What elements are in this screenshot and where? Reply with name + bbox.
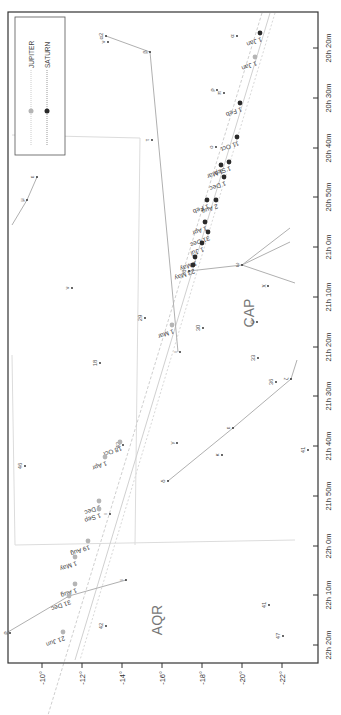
star-dot bbox=[223, 92, 225, 94]
constellation-label-aqr: AQR bbox=[149, 605, 165, 635]
saturn-date-label: 1 Mar bbox=[205, 168, 224, 181]
saturn-date-label: 11 Oct bbox=[220, 140, 240, 153]
jupiter-point: 1 May bbox=[58, 555, 78, 573]
constellation-labels: CAP AQR bbox=[149, 299, 257, 636]
star: α2 bbox=[98, 32, 107, 39]
star-label: δ bbox=[160, 479, 166, 483]
star: γ bbox=[169, 442, 178, 445]
star-label: ο bbox=[208, 145, 214, 149]
star-label: κ bbox=[214, 453, 220, 457]
saturn-marker bbox=[193, 255, 198, 260]
jupiter-marker bbox=[97, 499, 102, 504]
jupiter-date-label: 21 Jun bbox=[45, 635, 66, 648]
dec-axis bbox=[42, 663, 282, 668]
saturn-point: 1 Apr bbox=[190, 220, 208, 238]
star-dot bbox=[290, 378, 292, 380]
dec-tick-label: -16° bbox=[158, 671, 167, 685]
star-label: ν bbox=[64, 287, 70, 290]
jupiter-marker bbox=[103, 455, 108, 460]
star-label: ζ bbox=[283, 377, 289, 380]
star: β bbox=[142, 50, 151, 54]
dec-tick-label: -22° bbox=[278, 671, 287, 685]
star-dot bbox=[275, 381, 277, 383]
star-dot bbox=[307, 449, 309, 451]
jupiter-point: 1 Jan bbox=[240, 55, 258, 73]
star-label: ψ bbox=[249, 320, 255, 324]
star: ω bbox=[234, 262, 243, 267]
jupiter-date-label: 1 May bbox=[58, 559, 78, 573]
star: π bbox=[216, 91, 225, 95]
legend-saturn-label: SATURN bbox=[44, 41, 51, 68]
star-label: ι bbox=[102, 513, 108, 515]
jupiter-marker bbox=[67, 594, 72, 599]
star-label: ε bbox=[29, 175, 35, 178]
saturn-marker bbox=[258, 31, 263, 36]
star: 29 bbox=[137, 314, 146, 321]
star-label: 41 bbox=[261, 601, 267, 608]
star-dot bbox=[36, 176, 38, 178]
star-dot bbox=[179, 351, 181, 353]
ra-tick-label: 20h 40m bbox=[324, 133, 333, 162]
star: 46 bbox=[17, 462, 26, 469]
ra-tick-labels: 20h 20m 20h 30m 20h 40m 20h 50m 21h 0m 2… bbox=[324, 33, 333, 659]
saturn-marker bbox=[227, 160, 232, 165]
star-label: β bbox=[142, 50, 148, 54]
constellation-boundaries bbox=[12, 135, 295, 545]
ra-tick-label: 21h 20m bbox=[324, 332, 333, 361]
saturn-marker bbox=[203, 220, 208, 225]
dec-tick-label: -10° bbox=[38, 671, 47, 685]
star: τ bbox=[144, 138, 153, 141]
star-dot bbox=[282, 635, 284, 637]
chart-svg: JUPITER SATURN -10° -12° -14° -16° -18° … bbox=[0, 0, 341, 715]
star-label: 41 bbox=[300, 446, 306, 453]
star-dot bbox=[109, 513, 111, 515]
star-dot bbox=[257, 357, 259, 359]
star-dot bbox=[71, 287, 73, 289]
saturn-marker bbox=[206, 230, 211, 235]
star: 42 bbox=[98, 622, 107, 629]
star-dot bbox=[24, 465, 26, 467]
star-label: ε bbox=[225, 426, 231, 429]
legend-jupiter-label: JUPITER bbox=[28, 41, 35, 68]
star-dot bbox=[144, 317, 146, 319]
ra-tick-label: 21h 50m bbox=[324, 481, 333, 510]
ra-tick-label: 21h 40m bbox=[324, 431, 333, 460]
jupiter-date-label: 1 Apr bbox=[90, 459, 108, 472]
star-label: χ bbox=[260, 284, 266, 288]
dec-tick-label: -20° bbox=[238, 671, 247, 685]
star: ν bbox=[64, 287, 73, 290]
star-dot bbox=[167, 480, 169, 482]
ra-tick-label: 21h 30m bbox=[324, 381, 333, 410]
star-label: τ bbox=[144, 138, 150, 141]
star-dot bbox=[236, 35, 238, 37]
star-label: 30 bbox=[195, 324, 201, 331]
jupiter-marker bbox=[86, 539, 91, 544]
star-dot bbox=[105, 35, 107, 37]
jupiter-point: 31 Dec bbox=[50, 594, 72, 613]
jupiter-point: 21 Jun bbox=[45, 630, 66, 649]
jupiter-series: 1 Jan1 Mar18 Oct1 Apr1 Dec1 Sep19 Aug1 M… bbox=[45, 55, 258, 649]
star-dot bbox=[215, 146, 217, 148]
ra-tick-label: 22h 20m bbox=[324, 630, 333, 659]
star-dot bbox=[26, 199, 28, 201]
star: χ bbox=[260, 284, 269, 288]
ra-tick-label: 20h 20m bbox=[324, 33, 333, 62]
star-chart: JUPITER SATURN -10° -12° -14° -16° -18° … bbox=[0, 0, 341, 715]
star-dot bbox=[232, 427, 234, 429]
star-dot bbox=[122, 444, 124, 446]
star: 47 bbox=[275, 632, 284, 639]
star-label: ρ bbox=[2, 631, 8, 635]
star-label: ω bbox=[234, 262, 240, 267]
star: ο bbox=[208, 145, 217, 149]
star-dot bbox=[202, 327, 204, 329]
star: ι bbox=[118, 579, 127, 581]
saturn-marker bbox=[235, 135, 240, 140]
jupiter-marker bbox=[170, 323, 175, 328]
star-label: 18 bbox=[92, 359, 98, 366]
star-label: α bbox=[229, 34, 235, 38]
star-label: ι bbox=[118, 579, 124, 581]
saturn-marker bbox=[222, 175, 227, 180]
dec-tick-label: -12° bbox=[78, 671, 87, 685]
jupiter-marker bbox=[73, 555, 78, 560]
star-label: 33 bbox=[250, 354, 256, 361]
